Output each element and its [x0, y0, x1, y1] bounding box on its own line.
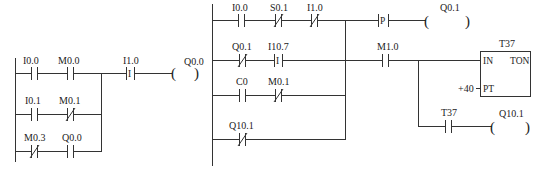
contact-label: I1.0	[123, 55, 139, 66]
coil-right-paren: )	[194, 65, 199, 82]
contact-no-c0: C0	[236, 76, 248, 102]
contact-no-i01: I0.1	[25, 95, 41, 121]
contact-no-t37: T37	[441, 107, 457, 133]
coil-left-paren: (	[424, 13, 429, 30]
contact-label: I1.0	[307, 2, 323, 13]
rung-branch-2: I0.1 M0.1	[15, 95, 101, 121]
coil-left-paren: (	[490, 119, 495, 136]
contact-no-m10: M1.0	[377, 41, 398, 67]
ladder-diagram: I0.0 M0.0 I0.1 M0.1	[0, 0, 544, 171]
contact-nc-q01: Q0.1	[232, 41, 252, 67]
contact-positive-edge: P	[379, 14, 389, 27]
edge-glyph: P	[380, 16, 385, 26]
coil-label: Q10.1	[499, 108, 524, 119]
contact-label: M0.0	[58, 55, 79, 66]
contact-immediate-i107: I I10.7	[268, 41, 289, 67]
coil-left-paren: (	[171, 65, 176, 82]
contact-no-i00: I0.0	[232, 2, 248, 27]
contact-label: M0.1	[268, 76, 289, 87]
timer-name: T37	[499, 38, 515, 49]
contact-label: M0.3	[24, 132, 45, 143]
contact-nc-m01: M0.1	[59, 95, 80, 121]
contact-nc-m03: M0.3	[24, 132, 45, 158]
contact-label: Q10.1	[229, 120, 254, 131]
timer-preset-value: +40	[458, 83, 474, 94]
timer-input-pt: PT	[483, 84, 494, 94]
contact-label: I0.0	[23, 55, 39, 66]
coil-q01: ( ) Q0.1	[424, 2, 470, 30]
contact-nc-q101: Q10.1	[229, 120, 254, 146]
contact-label: C0	[236, 76, 248, 87]
contact-no-i00: I0.0	[23, 55, 39, 80]
contact-label: M1.0	[377, 41, 398, 52]
rung-branch-3: M0.3 Q0.0	[15, 132, 101, 158]
coil-label: Q0.1	[440, 2, 460, 13]
coil-label: Q0.0	[184, 56, 204, 67]
timer-block-t37: T37 IN TON PT +40	[458, 38, 531, 97]
contact-label: Q0.0	[62, 132, 82, 143]
rung-branch-1: I0.0 S0.1 I1.0	[212, 2, 378, 27]
contact-nc-s01: S0.1	[270, 2, 288, 27]
contact-label: I10.7	[268, 41, 289, 52]
timer-input-in: IN	[483, 56, 493, 66]
rung-branch-2: Q0.1 I I10.7	[212, 41, 382, 67]
immediate-glyph: I	[128, 69, 131, 79]
rung-branch-4: Q10.1	[212, 120, 345, 146]
contact-label: T37	[441, 107, 457, 118]
rung-branch-1: I0.0 M0.0	[15, 55, 127, 80]
contact-label: S0.1	[270, 2, 288, 13]
network-right: I0.0 S0.1 I1.0	[212, 2, 531, 166]
rung-branch-3: C0 M0.1	[212, 76, 345, 102]
contact-no-q00: Q0.0	[62, 132, 82, 158]
network-left: I0.0 M0.0 I0.1 M0.1	[15, 55, 204, 162]
coil-q00: ( ) Q0.0	[171, 56, 204, 82]
contact-nc-m01: M0.1	[268, 76, 289, 102]
contact-no-m00: M0.0	[58, 55, 79, 80]
contact-label: I0.1	[25, 95, 41, 106]
immediate-glyph: I	[276, 56, 279, 66]
contact-label: M0.1	[59, 95, 80, 106]
contact-immediate-i10: I I1.0	[123, 55, 139, 80]
contact-label: Q0.1	[232, 41, 252, 52]
coil-right-paren: )	[525, 119, 530, 136]
timer-type: TON	[510, 56, 529, 66]
coil-q101: ( ) Q10.1	[490, 108, 530, 136]
contact-label: I0.0	[232, 2, 248, 13]
contact-nc-i10: I1.0	[307, 2, 323, 27]
coil-right-paren: )	[465, 13, 470, 30]
